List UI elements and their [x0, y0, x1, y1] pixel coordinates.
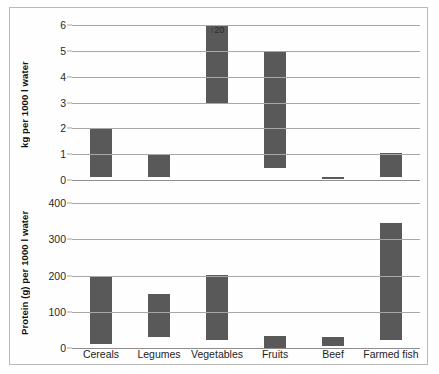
y-tick-mark [67, 203, 72, 204]
y-tick-mark [67, 50, 72, 51]
gridline [72, 312, 420, 313]
bar-legumes [148, 154, 170, 177]
gridline [72, 51, 420, 52]
y-tick-mark [67, 102, 72, 103]
y-tick-label: 1 [60, 148, 66, 160]
bar-vegetables [206, 25, 228, 103]
bar-farmed-fish [380, 223, 402, 340]
y-tick-label: 200 [48, 270, 66, 282]
bar-cereals [90, 128, 112, 177]
plot-area-bottom: 0100200300400 [72, 203, 420, 348]
bar-farmed-fish [380, 153, 402, 178]
y-tick-label: 4 [60, 71, 66, 83]
y-tick-label: 300 [48, 233, 66, 245]
x-tick-label-fruits: Fruits [262, 348, 288, 360]
bar-vegetables [206, 275, 228, 340]
bar-beef [322, 177, 344, 179]
chart-panel-top: kg per 1000 l water ↑20 0123456 [10, 8, 429, 196]
chart-panel-bottom: Protein (g) per 1000 l water 01002003004… [10, 196, 429, 366]
gridline [72, 180, 420, 181]
gridline [72, 203, 420, 204]
x-tick-label-legumes: Legumes [137, 348, 180, 360]
y-tick-label: 2 [60, 122, 66, 134]
x-tick-label-farmed-fish: Farmed fish [363, 348, 418, 360]
x-tick-label-beef: Beef [322, 348, 344, 360]
y-tick-mark [67, 239, 72, 240]
bar-legumes [148, 294, 170, 338]
y-tick-label: 3 [60, 97, 66, 109]
y-tick-mark [67, 76, 72, 77]
y-axis-label-top: kg per 1000 l water [15, 30, 33, 180]
y-tick-mark [67, 128, 72, 129]
bar-cereals [90, 276, 112, 345]
x-axis-categories: CerealsLegumesVegetablesFruitsBeefFarmed… [72, 348, 420, 366]
figure-frame: kg per 1000 l water ↑20 0123456 Protein … [9, 7, 428, 365]
y-axis-label-bottom: Protein (g) per 1000 l water [15, 200, 33, 346]
y-tick-mark [67, 154, 72, 155]
y-tick-label: 0 [60, 342, 66, 354]
bar-fruits [264, 51, 286, 169]
gridline [72, 128, 420, 129]
y-tick-label: 100 [48, 306, 66, 318]
x-tick-label-cereals: Cereals [83, 348, 119, 360]
y-tick-mark [67, 275, 72, 276]
bar-fruits [264, 336, 286, 348]
gridline [72, 239, 420, 240]
gridline [72, 25, 420, 26]
y-tick-label: 400 [48, 197, 66, 209]
x-tick-label-vegetables: Vegetables [191, 348, 243, 360]
gridline [72, 154, 420, 155]
y-tick-mark [67, 25, 72, 26]
gridline [72, 77, 420, 78]
y-tick-mark [67, 180, 72, 181]
plot-area-top: ↑20 0123456 [72, 25, 420, 180]
y-tick-label: 5 [60, 45, 66, 57]
y-tick-mark [67, 311, 72, 312]
y-tick-label: 0 [60, 174, 66, 186]
gridline [72, 103, 420, 104]
y-tick-label: 6 [60, 19, 66, 31]
bar-annotation-vegetables: ↑20 [210, 25, 225, 35]
gridline [72, 276, 420, 277]
bar-beef [322, 337, 344, 346]
